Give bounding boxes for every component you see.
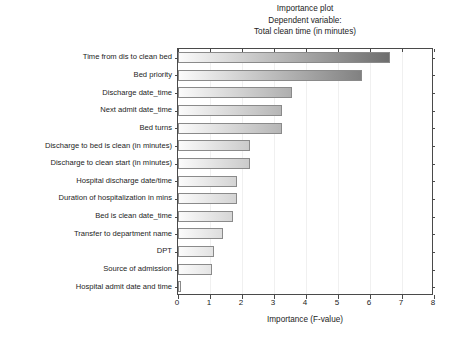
y-axis-tick bbox=[175, 252, 178, 253]
chart-title: Importance plot bbox=[177, 3, 433, 15]
y-axis-label: Bed turns bbox=[0, 123, 172, 132]
x-axis-tick-label: 6 bbox=[359, 298, 379, 307]
y-axis-tick bbox=[175, 270, 178, 271]
y-axis-tick-right bbox=[432, 146, 435, 147]
x-axis-tick-labels: 012345678 bbox=[177, 298, 433, 310]
y-axis-tick-right bbox=[432, 75, 435, 76]
bar bbox=[178, 264, 212, 275]
y-axis-tick bbox=[175, 217, 178, 218]
y-axis-label: Next admit date_time bbox=[0, 105, 172, 114]
bar bbox=[178, 52, 390, 63]
y-axis-category-labels: Time from dis to clean bedBed priorityDi… bbox=[0, 48, 172, 295]
bar bbox=[178, 246, 214, 257]
x-axis-tick-top bbox=[370, 49, 371, 52]
x-axis-tick-label: 2 bbox=[231, 298, 251, 307]
bar-row bbox=[178, 173, 432, 191]
y-axis-tick-right bbox=[432, 217, 435, 218]
bar bbox=[178, 105, 282, 116]
bar-row bbox=[178, 67, 432, 85]
y-axis-label: Time from dis to clean bed bbox=[0, 52, 172, 61]
y-axis-tick-right bbox=[432, 128, 435, 129]
bar bbox=[178, 176, 237, 187]
x-axis-tick-label: 0 bbox=[167, 298, 187, 307]
y-axis-tick-right bbox=[432, 234, 435, 235]
y-axis-label: Duration of hospitalization in mins bbox=[0, 193, 172, 202]
y-axis-label: Discharge to bed is clean (in minutes) bbox=[0, 141, 172, 150]
x-axis-tick-top bbox=[242, 49, 243, 52]
bar-row bbox=[178, 261, 432, 279]
y-axis-tick bbox=[175, 93, 178, 94]
bar bbox=[178, 158, 250, 169]
x-axis-tick-top bbox=[210, 49, 211, 52]
x-axis-tick-label: 5 bbox=[327, 298, 347, 307]
chart-subtitle-variable-name: Total clean time (in minutes) bbox=[177, 26, 433, 38]
x-axis-title: Importance (F-value) bbox=[177, 315, 433, 324]
bar-row bbox=[178, 208, 432, 226]
bar bbox=[178, 70, 362, 81]
y-axis-tick-right bbox=[432, 287, 435, 288]
bar-row bbox=[178, 137, 432, 155]
y-axis-tick bbox=[175, 287, 178, 288]
y-axis-label: Bed priority bbox=[0, 70, 172, 79]
plot-area bbox=[177, 48, 433, 295]
y-axis-tick-right bbox=[432, 111, 435, 112]
bar bbox=[178, 140, 250, 151]
chart-subtitle-dependent-variable: Dependent variable: bbox=[177, 15, 433, 27]
y-axis-tick bbox=[175, 128, 178, 129]
y-axis-tick-right bbox=[432, 252, 435, 253]
y-axis-tick bbox=[175, 146, 178, 147]
bar bbox=[178, 211, 233, 222]
y-axis-tick bbox=[175, 111, 178, 112]
x-axis-tick-top bbox=[338, 49, 339, 52]
y-axis-tick-right bbox=[432, 58, 435, 59]
y-axis-label: Transfer to department name bbox=[0, 229, 172, 238]
x-axis-tick-top bbox=[306, 49, 307, 52]
y-axis-tick bbox=[175, 234, 178, 235]
y-axis-label: Discharge to clean start (in minutes) bbox=[0, 158, 172, 167]
bar bbox=[178, 281, 181, 292]
y-axis-tick bbox=[175, 199, 178, 200]
x-axis-tick-label: 8 bbox=[423, 298, 443, 307]
y-axis-tick bbox=[175, 58, 178, 59]
y-axis-tick-right bbox=[432, 164, 435, 165]
x-axis-tick-top bbox=[402, 49, 403, 52]
x-axis-tick-label: 3 bbox=[263, 298, 283, 307]
y-axis-tick-right bbox=[432, 270, 435, 271]
y-axis-tick-right bbox=[432, 199, 435, 200]
bar-row bbox=[178, 120, 432, 138]
x-axis-tick-label: 1 bbox=[199, 298, 219, 307]
y-axis-tick-right bbox=[432, 93, 435, 94]
y-axis-tick bbox=[175, 164, 178, 165]
y-axis-label: Source of admission bbox=[0, 264, 172, 273]
bar-row bbox=[178, 225, 432, 243]
y-axis-label: Hospital discharge date/time bbox=[0, 176, 172, 185]
x-axis-tick-top bbox=[274, 49, 275, 52]
bar bbox=[178, 228, 223, 239]
y-axis-label: Hospital admit date and time bbox=[0, 282, 172, 291]
y-axis-label: Bed is clean date_time bbox=[0, 211, 172, 220]
y-axis-label: DPT bbox=[0, 246, 172, 255]
bar bbox=[178, 193, 237, 204]
bar-row bbox=[178, 278, 432, 296]
x-axis-tick-label: 7 bbox=[391, 298, 411, 307]
bar-row bbox=[178, 84, 432, 102]
bar bbox=[178, 87, 292, 98]
y-axis-tick bbox=[175, 75, 178, 76]
bar-row bbox=[178, 49, 432, 67]
x-axis-tick-top bbox=[434, 49, 435, 52]
bar-row bbox=[178, 102, 432, 120]
y-axis-tick bbox=[175, 181, 178, 182]
importance-plot-figure: Importance plot Dependent variable: Tota… bbox=[0, 0, 454, 337]
bar bbox=[178, 123, 282, 134]
x-axis-tick-top bbox=[178, 49, 179, 52]
bar-row bbox=[178, 155, 432, 173]
chart-title-block: Importance plot Dependent variable: Tota… bbox=[177, 3, 433, 38]
x-axis-tick-label: 4 bbox=[295, 298, 315, 307]
bar-row bbox=[178, 243, 432, 261]
y-axis-label: Discharge date_time bbox=[0, 88, 172, 97]
bar-row bbox=[178, 190, 432, 208]
y-axis-tick-right bbox=[432, 181, 435, 182]
